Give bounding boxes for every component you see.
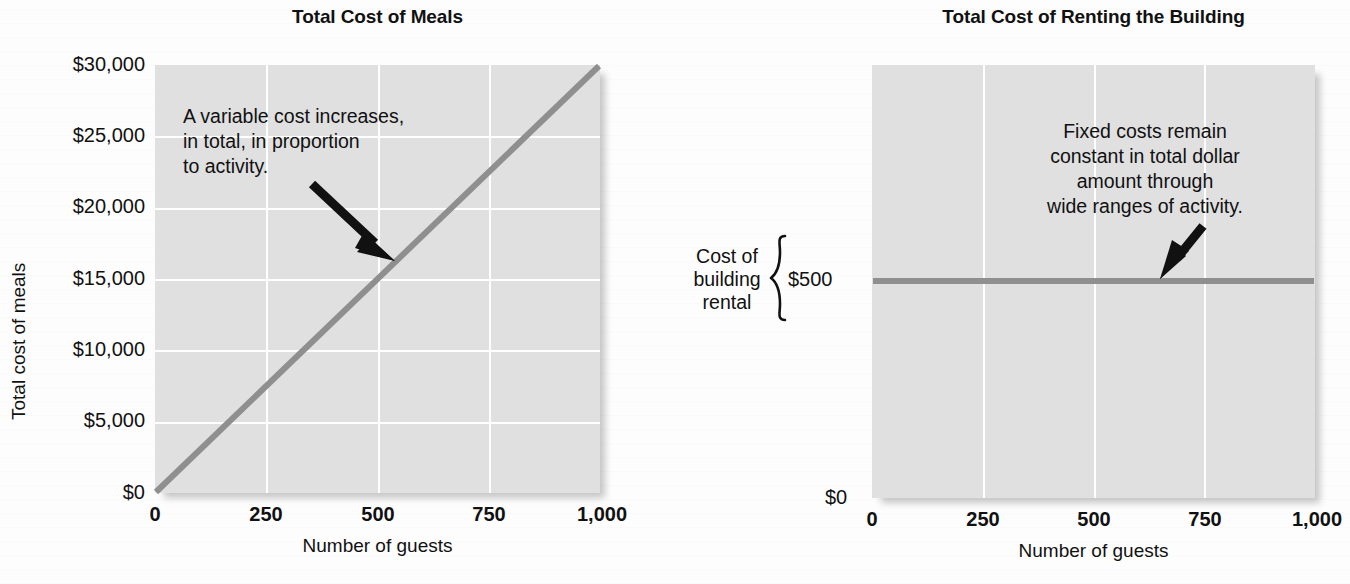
right-xtick-500: 500 (1054, 508, 1134, 531)
right-chart-title: Total Cost of Renting the Building (872, 6, 1315, 28)
left-ytick-10000: $10,000 (10, 338, 145, 361)
right-xtick-0: 0 (832, 508, 912, 531)
right-chart-annotation: Fixed costs remain constant in total dol… (1000, 119, 1290, 219)
right-ytick-500: $500 (788, 268, 833, 291)
left-ytick-30000: $30,000 (10, 53, 145, 76)
left-xtick-0: 0 (115, 503, 195, 526)
right-xtick-250: 250 (943, 508, 1023, 531)
left-ytick-15000: $15,000 (10, 267, 145, 290)
left-x-axis-title: Number of guests (155, 535, 600, 557)
building-rental-bracket-label: Cost of building rental (676, 245, 778, 314)
right-ytick-0: $0 (825, 486, 847, 509)
left-ytick-25000: $25,000 (10, 124, 145, 147)
gridline-v-750 (489, 65, 491, 493)
left-ytick-5000: $5,000 (10, 409, 145, 432)
left-xtick-1000: 1,000 (557, 503, 647, 526)
right-xtick-1000: 1,000 (1272, 508, 1350, 531)
figure-canvas: Total Cost of Meals $30,000 $25,000 $20,… (0, 0, 1350, 584)
left-y-axis-title: Total cost of meals (8, 263, 30, 420)
right-xtick-750: 750 (1165, 508, 1245, 531)
left-xtick-750: 750 (449, 503, 529, 526)
left-xtick-250: 250 (226, 503, 306, 526)
left-ytick-20000: $20,000 (10, 195, 145, 218)
left-chart-title: Total Cost of Meals (155, 6, 600, 28)
left-ytick-0: $0 (10, 481, 145, 504)
left-xtick-500: 500 (338, 503, 418, 526)
gridline-v-250-right (983, 65, 985, 498)
right-x-axis-title: Number of guests (872, 540, 1315, 562)
left-chart-annotation: A variable cost increases, in total, in … (183, 104, 404, 179)
